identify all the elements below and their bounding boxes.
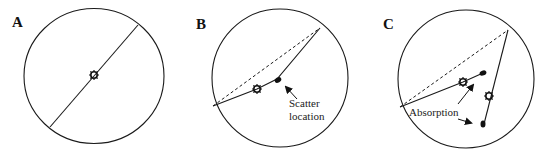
arrow-icon — [458, 119, 471, 123]
annihilation-icon — [89, 70, 99, 80]
absorbed-path-2 — [484, 30, 508, 124]
panel-c: C Absorption — [383, 10, 534, 148]
annihilation-icon — [484, 91, 494, 101]
scatter-label-line1: Scatter — [289, 97, 320, 109]
photon-path — [50, 25, 138, 127]
arrow-icon — [458, 85, 473, 104]
panel-b: B Scatter location — [196, 9, 348, 147]
panel-label-b: B — [196, 16, 206, 32]
absorbed-path-1 — [400, 73, 483, 107]
figure: A B Scatter location C Absorption — [0, 0, 543, 156]
absorption-point-icon — [481, 121, 486, 128]
scatter-label-line2: location — [289, 110, 325, 122]
true-path-dashed — [213, 28, 320, 106]
panel-label-c: C — [383, 16, 394, 32]
panel-a: A — [12, 9, 164, 144]
panel-label-a: A — [12, 14, 23, 30]
absorption-point-icon — [479, 69, 487, 76]
absorption-label: Absorption — [409, 106, 459, 118]
